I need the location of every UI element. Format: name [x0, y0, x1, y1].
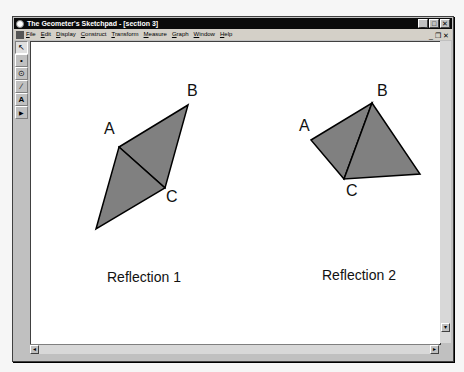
straightedge-tool[interactable]: ∕: [15, 80, 28, 93]
text-icon: A: [19, 95, 25, 104]
app-icon: [16, 20, 24, 28]
caption-reflection-2[interactable]: Reflection 2: [322, 267, 396, 283]
compass-tool[interactable]: ⊙: [15, 67, 28, 80]
close-button[interactable]: ✕: [440, 19, 450, 28]
selection-arrow-tool[interactable]: ↖: [15, 41, 28, 54]
toolbox: ↖ • ⊙ ∕ A ▶: [15, 41, 28, 119]
figure-reflection-2[interactable]: [311, 103, 420, 179]
menu-graph[interactable]: Graph: [172, 29, 189, 40]
compass-icon: ⊙: [18, 69, 25, 78]
doc-close-button[interactable]: ✕: [443, 30, 449, 41]
menu-help[interactable]: Help: [220, 29, 232, 40]
sketch-canvas[interactable]: A B C A B C Reflection 1 Reflection 2: [30, 41, 441, 345]
label-a-1[interactable]: A: [104, 120, 115, 138]
horizontal-scrollbar[interactable]: ◂ ▸: [30, 344, 439, 354]
menu-measure[interactable]: Measure: [144, 29, 167, 40]
text-tool[interactable]: A: [15, 93, 28, 106]
label-c-1[interactable]: C: [166, 188, 178, 206]
menu-file[interactable]: File: [26, 29, 36, 40]
label-c-2[interactable]: C: [346, 182, 358, 200]
custom-tool-icon: ▶: [19, 110, 24, 116]
label-b-1[interactable]: B: [187, 82, 198, 100]
label-b-2[interactable]: B: [377, 82, 388, 100]
scroll-down-button[interactable]: ▾: [441, 323, 450, 332]
menu-construct[interactable]: Construct: [81, 29, 107, 40]
segment-icon: ∕: [21, 82, 22, 91]
menu-display[interactable]: Display: [56, 29, 76, 40]
menu-bar: File Edit Display Construct Transform Me…: [14, 29, 452, 40]
custom-tool[interactable]: ▶: [15, 106, 28, 119]
minimize-button[interactable]: _: [418, 19, 428, 28]
scroll-right-button[interactable]: ▸: [430, 345, 439, 354]
vertical-scrollbar[interactable]: ▾: [440, 41, 451, 343]
arrow-icon: ↖: [18, 43, 25, 52]
menu-edit[interactable]: Edit: [41, 29, 51, 40]
sketchpad-window: The Geometer's Sketchpad - [section 3] _…: [12, 16, 454, 362]
point-icon: •: [20, 56, 23, 65]
title-bar: The Geometer's Sketchpad - [section 3] _…: [14, 18, 452, 29]
menu-transform[interactable]: Transform: [111, 29, 138, 40]
point-tool[interactable]: •: [15, 54, 28, 67]
window-title: The Geometer's Sketchpad - [section 3]: [27, 18, 158, 29]
maximize-button[interactable]: □: [429, 19, 439, 28]
label-a-2[interactable]: A: [299, 117, 310, 135]
doc-restore-button[interactable]: ❐: [435, 30, 441, 41]
menu-window[interactable]: Window: [194, 29, 215, 40]
doc-minimize-button[interactable]: _: [429, 30, 433, 41]
caption-reflection-1[interactable]: Reflection 1: [107, 269, 181, 285]
scroll-left-button[interactable]: ◂: [30, 345, 39, 354]
document-icon[interactable]: [16, 31, 24, 39]
